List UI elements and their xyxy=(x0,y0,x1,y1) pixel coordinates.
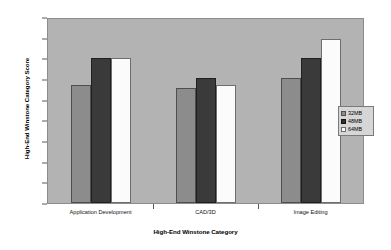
bar xyxy=(71,85,91,203)
y-axis-tick-mark xyxy=(42,162,47,163)
bar xyxy=(176,88,196,204)
bar xyxy=(196,78,216,203)
x-axis-category-label: Image Editing xyxy=(293,209,327,215)
legend-item[interactable]: 32MB xyxy=(341,109,371,117)
legend-item[interactable]: 48MB xyxy=(341,117,371,125)
y-axis-tick-mark xyxy=(42,100,47,101)
y-axis-tick-mark xyxy=(42,80,47,81)
bar xyxy=(111,58,131,203)
legend-swatch-icon xyxy=(341,111,346,116)
y-axis-tick-mark xyxy=(42,38,47,39)
y-axis-tick-mark xyxy=(42,142,47,143)
bar xyxy=(91,58,111,203)
bar-chart: High-End Winstone Category Score 00.20.4… xyxy=(0,0,391,250)
bars-layer xyxy=(48,19,363,203)
legend-label: 48MB xyxy=(348,117,362,125)
bar xyxy=(301,58,321,203)
legend-label: 32MB xyxy=(348,109,362,117)
y-axis-tick-mark xyxy=(42,18,47,19)
bar-group xyxy=(48,19,153,203)
bar-group xyxy=(153,19,258,203)
legend-label: 64MB xyxy=(348,125,362,133)
y-axis-tick-mark xyxy=(42,204,47,205)
legend-swatch-icon xyxy=(341,127,346,132)
x-axis-tick-mark xyxy=(258,204,259,209)
y-axis-tick-mark xyxy=(42,121,47,122)
x-axis-category-label: Application Development xyxy=(70,209,132,215)
x-axis-category-label: CAD/3D xyxy=(195,209,216,215)
y-axis-tick-mark xyxy=(42,183,47,184)
bar xyxy=(281,78,301,203)
legend: 32MB48MB64MB xyxy=(338,106,374,136)
y-axis-tick-mark xyxy=(42,59,47,60)
legend-swatch-icon xyxy=(341,119,346,124)
bar xyxy=(216,85,236,203)
legend-item[interactable]: 64MB xyxy=(341,125,371,133)
x-axis-tick-mark xyxy=(153,204,154,209)
y-axis-title: High-End Winstone Category Score xyxy=(23,39,30,179)
x-axis-title: High-End Winstone Category xyxy=(0,228,391,235)
